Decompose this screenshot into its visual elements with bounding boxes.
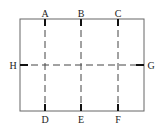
label-a: A bbox=[41, 8, 49, 19]
label-h: H bbox=[9, 60, 16, 71]
label-c: C bbox=[115, 8, 122, 19]
label-g: G bbox=[147, 60, 154, 71]
label-e: E bbox=[78, 114, 84, 125]
section-diagram: A B C D E F H G bbox=[0, 0, 164, 132]
label-b: B bbox=[78, 8, 85, 19]
label-d: D bbox=[41, 114, 48, 125]
label-f: F bbox=[115, 114, 121, 125]
